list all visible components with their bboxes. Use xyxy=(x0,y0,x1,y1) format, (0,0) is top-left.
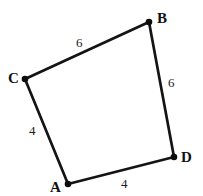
vertex-dot-A xyxy=(65,181,72,188)
edge-length-label-ad: 4 xyxy=(121,177,128,190)
vertex-label-b: B xyxy=(157,11,167,26)
vertex-dot-C xyxy=(22,76,29,83)
geometry-diagram-canvas: A B C D 6 6 4 4 xyxy=(0,0,203,196)
vertex-dot-B xyxy=(146,19,153,26)
vertex-label-a: A xyxy=(50,180,61,195)
vertex-label-c: C xyxy=(8,71,19,86)
vertex-label-d: D xyxy=(181,150,192,165)
edge-C-to-B xyxy=(25,22,149,79)
edge-length-label-bd: 6 xyxy=(168,76,175,89)
edge-length-label-ca: 4 xyxy=(29,124,36,137)
vertex-dot-D xyxy=(171,154,178,161)
quadrilateral-figure xyxy=(0,0,203,196)
edge-length-label-cb: 6 xyxy=(76,36,83,49)
